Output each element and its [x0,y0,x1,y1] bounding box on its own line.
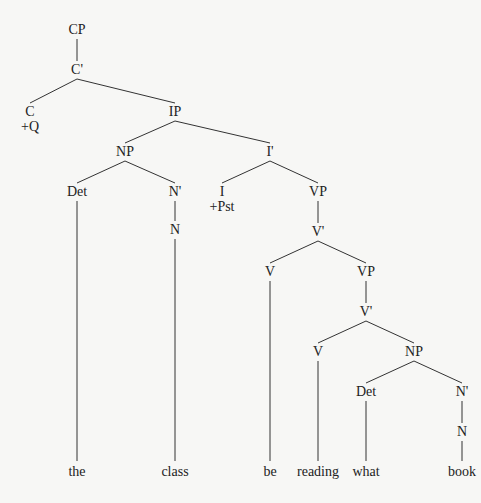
tree-node-cbar: C' [47,62,107,77]
tree-node-v2: V [288,344,348,359]
tree-node-vp2: VP [336,264,396,279]
tree-edge [77,79,175,103]
tree-node-det1: Det [47,184,107,199]
tree-node-np1: NP [95,144,155,159]
tree-edge [414,361,462,383]
tree-edge [77,161,125,183]
tree-edge [222,161,270,183]
tree-edge [175,121,270,143]
tree-leaf-word: book [432,464,481,479]
tree-node-c: C [0,104,60,119]
tree-edge [125,161,175,183]
tree-node-v1: V [240,264,300,279]
tree-node-nbar2: N' [432,384,481,399]
tree-node-n2: N [432,424,481,439]
tree-leaf-word: class [145,464,205,479]
tree-node-np2: NP [384,344,444,359]
tree-node-vbar1: V' [288,224,348,239]
tree-node-feature: +Q [0,119,60,134]
tree-edge [366,361,414,383]
tree-edge [318,321,366,343]
tree-node-n1: N [145,222,205,237]
tree-node-ibar: I' [240,144,300,159]
tree-edge [125,121,175,143]
tree-edge [30,79,77,103]
tree-edge [270,161,318,183]
tree-node-ip: IP [145,104,205,119]
tree-node-det2: Det [336,384,396,399]
tree-node-feature: +Pst [192,199,252,214]
tree-edge [366,321,414,343]
tree-leaf-word: the [47,464,107,479]
tree-node-vp1: VP [288,184,348,199]
tree-edge [318,241,366,263]
tree-node-i: I [192,184,252,199]
tree-node-vbar2: V' [336,304,396,319]
tree-leaf-word: what [336,464,396,479]
tree-edge [270,241,318,263]
tree-node-cp: CP [47,22,107,37]
